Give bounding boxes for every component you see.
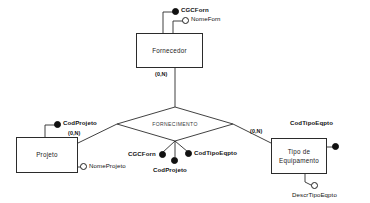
entity-tipo-label-line1: Tipo de (288, 147, 311, 156)
attribute-label-codprojeto-projeto[interactable]: CodProjeto (63, 119, 97, 126)
attribute-label-codtipoeqpto-tipo[interactable]: CodTipoEqpto (290, 119, 333, 126)
entity-projeto-label: Projeto (36, 150, 58, 159)
key-attribute-marker-icon[interactable] (332, 143, 339, 150)
attribute-label-nomeprojeto-projeto[interactable]: NomeProjeto (89, 162, 126, 169)
key-attribute-marker-icon[interactable] (159, 151, 166, 158)
entity-fornecedor-label: Fornecedor (152, 46, 187, 55)
cardinality-label-fornecedor: (0,N) (155, 71, 167, 77)
entity-projeto[interactable]: Projeto (16, 137, 78, 173)
entity-fornecedor[interactable]: Fornecedor (136, 33, 203, 68)
attribute-label-cgcforn-fornecedor[interactable]: CGCForn (181, 6, 209, 13)
attribute-marker-icon[interactable] (311, 182, 318, 189)
attribute-label-descrtipoeqpto-tipo[interactable]: DescrTipoEqpto (292, 191, 337, 198)
entity-tipo-label-line2: Equipamento (279, 156, 319, 165)
key-attribute-marker-icon[interactable] (54, 121, 61, 128)
attribute-label-cgcforn-rel[interactable]: CGCForn (128, 150, 156, 157)
attribute-label-codtipoeqpto-rel[interactable]: CodTipoEqpto (194, 149, 237, 156)
attribute-marker-icon[interactable] (80, 163, 87, 170)
attribute-label-nomeforn-fornecedor[interactable]: NomeForn (191, 15, 221, 22)
cardinality-label-tipo: (0,N) (250, 128, 262, 134)
key-attribute-marker-icon[interactable] (185, 150, 192, 157)
key-attribute-marker-icon[interactable] (171, 157, 178, 164)
wire-fornecimento-projeto (78, 124, 117, 143)
attribute-marker-icon[interactable] (182, 17, 189, 24)
cardinality-label-projeto: (0,N) (68, 130, 80, 136)
attribute-label-codprojeto-rel[interactable]: CodProjeto (153, 166, 187, 173)
er-diagram-canvas: Fornecedor Projeto Tipo de Equipamento F… (0, 0, 370, 203)
wire-fornecedor-cgcforn (163, 12, 176, 33)
key-attribute-marker-icon[interactable] (172, 8, 179, 15)
relationship-label-fornecimento[interactable]: FORNECIMENTO (137, 121, 213, 127)
entity-tipo-de-equipamento[interactable]: Tipo de Equipamento (271, 138, 327, 174)
